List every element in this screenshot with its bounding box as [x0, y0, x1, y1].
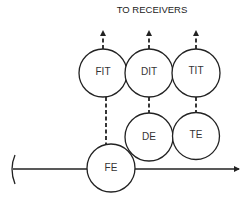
node-te-label: TE — [190, 129, 203, 140]
node-de-label: DE — [142, 131, 156, 142]
node-te: TE — [173, 113, 220, 160]
node-dit-label: DIT — [141, 66, 157, 77]
node-fe-label: FE — [105, 162, 118, 173]
node-fe: FE — [87, 144, 135, 192]
title-to-receivers: TO RECEIVERS — [117, 4, 188, 15]
node-fit-label: FIT — [96, 66, 111, 77]
node-fit: FIT — [79, 49, 127, 97]
node-dit: DIT — [125, 49, 173, 97]
signal-flow-diagram: TO RECEIVERS FIT DIT TIT DE TE FE — [0, 0, 245, 200]
node-tit: TIT — [172, 49, 220, 97]
node-tit-label: TIT — [189, 65, 204, 76]
node-de: DE — [125, 113, 173, 161]
